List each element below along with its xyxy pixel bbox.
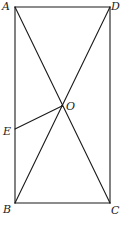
label-o: O [66, 100, 75, 113]
label-b: B [2, 203, 11, 216]
segment-oe [15, 106, 62, 129]
label-c: C [111, 204, 120, 217]
label-a: A [1, 0, 10, 13]
label-d: D [110, 0, 120, 13]
rectangle-diagram: A D B C O E [0, 0, 121, 228]
label-e: E [2, 125, 11, 138]
point-o-marker [61, 105, 63, 107]
